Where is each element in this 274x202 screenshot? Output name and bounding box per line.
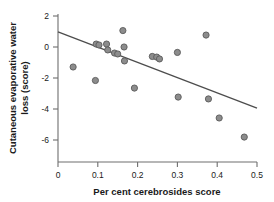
scatter-plot-figure: 2 0 -2 -4 -6 0 0.1 0.2 0.3 0.4 0.5 Per c… [0, 0, 274, 202]
scatter-point [241, 134, 247, 140]
scatter-point [203, 32, 209, 38]
scatter-point [105, 47, 111, 53]
y-axis-tick-labels: 2 0 -2 -4 -6 [41, 11, 49, 145]
axes-spines [58, 14, 257, 162]
scatter-point-group [70, 27, 247, 140]
chart-canvas: 2 0 -2 -4 -6 0 0.1 0.2 0.3 0.4 0.5 Per c… [0, 0, 274, 202]
x-tick-label: 0 [56, 170, 61, 180]
y-tick-label: 2 [44, 11, 49, 21]
scatter-point [92, 77, 98, 83]
y-tick-label: -6 [41, 135, 49, 145]
scatter-point [115, 51, 121, 57]
x-tick-label: 0.1 [92, 170, 104, 180]
scatter-point [121, 44, 127, 50]
y-tick-label: 0 [44, 42, 49, 52]
x-axis-tick-labels: 0 0.1 0.2 0.3 0.4 0.5 [56, 170, 264, 180]
x-tick-label: 0.2 [132, 170, 144, 180]
scatter-point [156, 56, 162, 62]
y-tick-label: -2 [41, 73, 49, 83]
scatter-point [121, 58, 127, 64]
scatter-point [120, 27, 126, 33]
scatter-point [175, 94, 181, 100]
y-axis-title-line2: loss (score) [19, 61, 30, 114]
scatter-point [174, 49, 180, 55]
scatter-point [96, 42, 102, 48]
x-tick-label: 0.5 [251, 170, 263, 180]
scatter-point [70, 64, 76, 70]
y-tick-label: -4 [41, 104, 49, 114]
scatter-point [216, 115, 222, 121]
x-axis-ticks [58, 162, 257, 167]
y-axis-title-line1: Cutaneous evaporative water [7, 22, 18, 154]
scatter-point [103, 41, 109, 47]
regression-trend-line [58, 32, 257, 108]
scatter-point [205, 96, 211, 102]
y-axis-ticks [53, 16, 58, 140]
x-axis-title: Per cent cerebrosides score [93, 186, 220, 197]
x-tick-label: 0.3 [171, 170, 183, 180]
x-tick-label: 0.4 [211, 170, 223, 180]
scatter-point [131, 85, 137, 91]
